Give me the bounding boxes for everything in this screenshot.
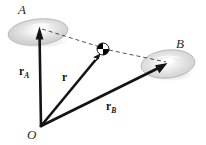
particle-marker [97, 43, 109, 55]
vector-diagram-figure: A B O rA r rB [0, 0, 206, 145]
label-vector-r-a: rA [19, 66, 29, 78]
label-vector-r-a-subscript: A [24, 71, 29, 80]
vector-r-shaft [41, 60, 96, 126]
label-vector-r-b-subscript: B [111, 106, 116, 115]
vector-r-b [41, 63, 168, 126]
label-body-a: A [18, 3, 26, 16]
origin-point [39, 124, 42, 127]
vector-r-relative [41, 54, 101, 127]
vector-diagram-canvas [0, 0, 206, 145]
label-vector-r: r [62, 72, 67, 84]
label-vector-r-b: rB [106, 101, 116, 113]
label-origin: O [27, 128, 36, 141]
vector-r-a-shaft [40, 38, 41, 126]
label-vector-r-symbol: r [62, 71, 67, 83]
body-b-disk [140, 47, 197, 82]
label-body-b: B [176, 37, 184, 50]
vector-r-b-shaft [41, 69, 158, 127]
